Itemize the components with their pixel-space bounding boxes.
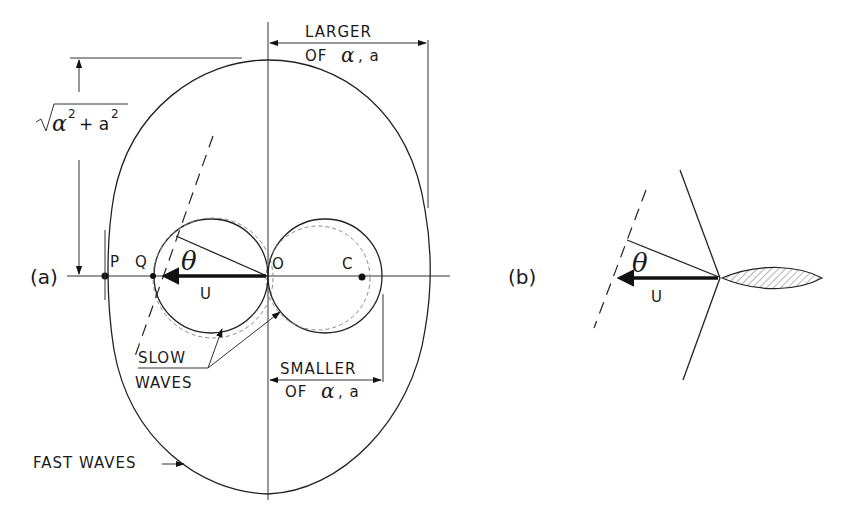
slow-waves-line1: SLOW [138,349,186,367]
point-c [359,274,366,281]
smaller-label-line2: OF α , a [285,379,360,403]
svg-text:OF: OF [285,383,307,401]
svg-text:, a: , a [338,383,360,401]
point-q [150,273,156,279]
label-c: C [342,255,353,273]
svg-text:, a: , a [358,47,380,65]
airfoil-body [722,267,822,288]
panel-b-label: (b) [508,265,536,289]
theta-label-b: θ [632,248,648,278]
theta-label: θ [181,246,197,276]
svg-text:2: 2 [68,107,76,121]
wave-line-upper [680,170,720,278]
panel-a-label: (a) [30,265,58,289]
u-label: U [200,285,212,303]
slow-wave-circle-right-dashed [266,226,370,330]
svg-text:OF: OF [305,47,327,65]
larger-label-line1: LARGER [305,23,372,41]
panel-a: (a) P Q O C θ U α 2 + a 2 LARGER OF α , … [30,22,450,500]
label-q: Q [135,253,148,271]
svg-text:α: α [52,111,67,136]
svg-text:α: α [321,379,335,403]
radius-label: α 2 + a 2 [36,104,128,136]
svg-text:2: 2 [111,107,119,121]
slow-waves-arrow-2 [208,312,280,368]
larger-label-line2: OF α , a [305,43,380,67]
wave-line-lower [683,278,720,380]
svg-text:+ a: + a [79,114,109,134]
slow-waves-line2: WAVES [135,374,193,392]
svg-text:α: α [341,43,355,67]
smaller-label-line1: SMALLER [280,360,356,378]
label-o: O [272,255,285,273]
wavefront-dashed-line [133,136,213,362]
u-label-b: U [651,288,663,306]
fast-waves-label: FAST WAVES [33,454,137,472]
label-p: P [110,253,120,271]
wave-diagram: (a) P Q O C θ U α 2 + a 2 LARGER OF α , … [0,0,845,519]
panel-b: (b) θ U [508,170,822,380]
